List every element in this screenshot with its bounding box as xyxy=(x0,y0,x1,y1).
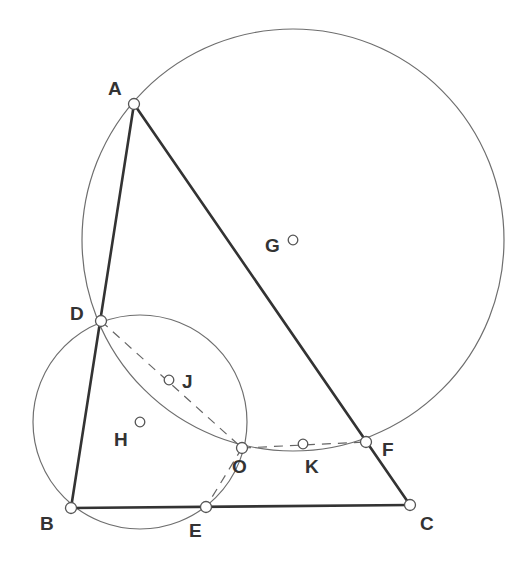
point-B-marker xyxy=(66,503,77,514)
point-H-label: H xyxy=(114,429,128,450)
point-G-label: G xyxy=(265,235,280,256)
point-E-marker xyxy=(201,502,212,513)
dashed-segments xyxy=(101,321,366,507)
point-F-label: F xyxy=(382,439,394,460)
point-labels: ABCDEFOKJGH xyxy=(40,78,434,541)
point-C-label: C xyxy=(420,513,434,534)
point-E-label: E xyxy=(189,520,202,541)
point-O-label: O xyxy=(232,456,247,477)
geometry-diagram: ABCDEFOKJGH xyxy=(0,0,527,576)
point-C-marker xyxy=(405,500,416,511)
points xyxy=(66,99,416,514)
point-H-marker xyxy=(135,417,145,427)
point-D-marker xyxy=(96,316,107,327)
point-J-label: J xyxy=(182,371,193,392)
point-A-label: A xyxy=(108,78,122,99)
point-K-marker xyxy=(298,439,308,449)
side-BC xyxy=(71,505,410,508)
point-D-label: D xyxy=(70,303,84,324)
point-A-marker xyxy=(129,99,140,110)
point-G-marker xyxy=(288,235,298,245)
point-K-label: K xyxy=(305,456,319,477)
point-O-marker xyxy=(237,443,248,454)
point-J-marker xyxy=(164,375,174,385)
point-B-label: B xyxy=(40,513,54,534)
circles xyxy=(33,29,504,529)
point-F-marker xyxy=(361,437,372,448)
